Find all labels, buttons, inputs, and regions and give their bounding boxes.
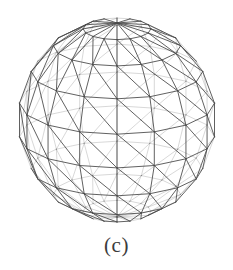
figure-caption: (c): [0, 232, 233, 258]
sphere-wireframe-illustration: [0, 0, 233, 236]
figure-panel: (c): [0, 0, 233, 270]
sphere-mesh-edges: [20, 18, 215, 222]
